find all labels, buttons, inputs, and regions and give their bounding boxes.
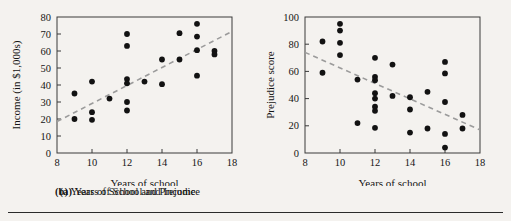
plot-frame xyxy=(57,17,232,153)
data-point xyxy=(89,79,95,85)
x-axis-tick-label: 18 xyxy=(475,157,486,168)
y-axis-tick-label: 20 xyxy=(41,114,52,125)
y-axis-tick-label: 100 xyxy=(283,12,299,23)
data-point xyxy=(194,34,200,40)
scatter-plot-a-svg: 8101214161801020304050607080Years of sch… xyxy=(0,0,255,186)
data-point xyxy=(124,43,130,49)
data-point xyxy=(337,40,343,46)
y-axis-tick-label: 60 xyxy=(41,46,52,57)
data-point xyxy=(194,47,200,53)
x-axis-tick-label: 14 xyxy=(405,157,416,168)
y-axis-tick-label: 40 xyxy=(289,93,300,104)
x-axis-tick-label: 16 xyxy=(192,157,203,168)
data-point xyxy=(177,30,183,36)
data-point xyxy=(194,21,200,27)
data-point xyxy=(425,89,431,95)
x-axis-tick-label: 10 xyxy=(87,157,98,168)
y-axis-tick-label: 50 xyxy=(41,63,52,74)
y-axis-tick-label: 70 xyxy=(41,29,52,40)
y-axis-tick-label: 10 xyxy=(41,131,52,142)
data-point xyxy=(407,107,413,113)
data-point xyxy=(372,108,378,114)
data-point xyxy=(177,57,183,63)
data-point xyxy=(89,117,95,123)
data-point xyxy=(89,109,95,115)
data-point xyxy=(320,70,326,76)
data-point xyxy=(390,93,396,99)
data-point xyxy=(124,99,130,105)
data-point xyxy=(372,77,378,83)
data-point xyxy=(372,55,378,61)
data-point xyxy=(442,131,448,137)
data-point xyxy=(124,31,130,37)
data-point xyxy=(124,108,130,114)
data-point xyxy=(72,91,78,97)
data-point xyxy=(355,77,361,83)
data-point xyxy=(442,71,448,77)
bottom-divider-rule xyxy=(8,212,503,213)
data-point xyxy=(442,99,448,105)
scatter-plot-b-svg: 81012141618020406080100Years of schoolPr… xyxy=(256,0,511,186)
x-axis-tick-label: 18 xyxy=(227,157,238,168)
data-point xyxy=(320,39,326,45)
y-axis-tick-label: 0 xyxy=(294,148,299,159)
x-axis-tick-label: 8 xyxy=(54,157,59,168)
y-axis-label: Prejudice score xyxy=(264,51,276,119)
x-axis-tick-label: 12 xyxy=(370,157,381,168)
y-axis-tick-label: 80 xyxy=(289,39,300,50)
trend-line xyxy=(57,31,232,121)
y-axis-tick-label: 20 xyxy=(289,120,300,131)
x-axis-tick-label: 16 xyxy=(440,157,451,168)
y-axis-tick-label: 80 xyxy=(41,12,52,23)
data-point xyxy=(390,62,396,68)
data-point xyxy=(407,130,413,136)
y-axis-tick-label: 30 xyxy=(41,97,52,108)
data-point xyxy=(372,125,378,131)
data-point xyxy=(460,112,466,118)
scatter-chart-income: 8101214161801020304050607080Years of sch… xyxy=(0,0,255,200)
data-point xyxy=(442,59,448,65)
data-point xyxy=(337,21,343,27)
data-point xyxy=(337,52,343,58)
y-axis-tick-label: 0 xyxy=(46,148,51,159)
data-point xyxy=(372,90,378,96)
data-point xyxy=(194,73,200,79)
scatter-chart-prejudice: 81012141618020406080100Years of schoolPr… xyxy=(256,0,511,200)
data-point xyxy=(460,126,466,132)
data-point xyxy=(212,52,218,58)
x-axis-label: Years of school xyxy=(111,177,179,186)
data-point xyxy=(142,79,148,85)
data-point xyxy=(159,81,165,87)
data-point xyxy=(355,120,361,126)
caption-b-lead: (b) xyxy=(55,186,68,197)
x-axis-label: Years of school xyxy=(359,177,427,186)
data-point xyxy=(107,96,113,102)
data-point xyxy=(425,126,431,132)
caption-panel-b: (b) Years of School and Prejudice xyxy=(0,186,255,197)
data-point xyxy=(442,145,448,151)
y-axis-tick-label: 40 xyxy=(41,80,52,91)
figure-root: 8101214161801020304050607080Years of sch… xyxy=(0,0,511,221)
data-point xyxy=(372,96,378,102)
data-point xyxy=(407,94,413,100)
caption-b-text: Years of School and Prejudice xyxy=(70,186,200,197)
plot-frame xyxy=(305,17,480,153)
x-axis-tick-label: 14 xyxy=(157,157,168,168)
data-point xyxy=(159,57,165,63)
x-axis-tick-label: 8 xyxy=(302,157,307,168)
y-axis-tick-label: 60 xyxy=(289,66,300,77)
x-axis-tick-label: 12 xyxy=(122,157,133,168)
data-point xyxy=(72,116,78,122)
x-axis-tick-label: 10 xyxy=(335,157,346,168)
y-axis-label: Income (in $1,000s) xyxy=(10,40,23,129)
data-point xyxy=(337,28,343,34)
data-point xyxy=(124,80,130,86)
